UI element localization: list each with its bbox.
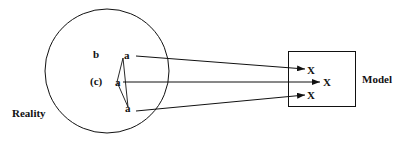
label-c: (c) xyxy=(90,75,103,88)
label-x-bottom: X xyxy=(307,89,315,101)
reality-model-diagram: b (c) a a a X X X Reality Model xyxy=(0,0,404,141)
label-a-middle: a xyxy=(115,76,121,88)
mapping-arrow-top xyxy=(136,56,305,69)
label-x-top: X xyxy=(307,64,315,76)
label-x-middle: X xyxy=(323,76,331,88)
model-box xyxy=(289,52,356,107)
mapping-arrow-bottom xyxy=(136,95,305,111)
label-a-top: a xyxy=(124,49,130,61)
model-label: Model xyxy=(362,73,392,85)
reality-circle xyxy=(45,9,169,133)
label-b: b xyxy=(93,48,99,60)
label-a-bottom: a xyxy=(125,102,131,114)
reality-label: Reality xyxy=(12,107,46,119)
